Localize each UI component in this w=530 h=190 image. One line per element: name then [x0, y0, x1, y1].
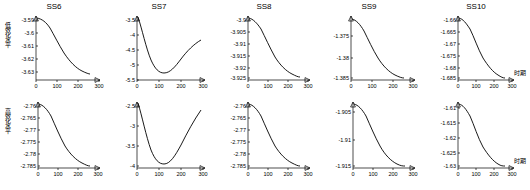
svg-text:200: 200 — [388, 171, 397, 177]
svg-text:0: 0 — [246, 83, 249, 89]
svg-text:-1.685: -1.685 — [440, 75, 456, 81]
svg-text:100: 100 — [53, 171, 62, 177]
svg-text:-1.625: -1.625 — [440, 150, 456, 156]
svg-text:-2.765: -2.765 — [230, 115, 246, 121]
svg-text:100: 100 — [263, 83, 272, 89]
plot-ss8-low: -3.9 -3.905 -3.91 -3.915 -3.92 -3.925 0 … — [220, 12, 314, 90]
plot-svg-ss7-low: -3.5 -4 -4.5 -5 -5.5 0 100 200 300 — [115, 12, 209, 90]
axes — [349, 16, 415, 82]
svg-text:0: 0 — [135, 171, 138, 177]
y-tick-labels: -1.375 -1.38 -1.385 — [333, 33, 349, 81]
svg-text:-2.76: -2.76 — [23, 103, 36, 109]
series-line — [138, 103, 201, 164]
x-axis-label-row2: 时期 — [514, 156, 526, 165]
svg-text:0: 0 — [456, 171, 459, 177]
svg-text:-2.775: -2.775 — [20, 139, 36, 145]
y-tick-labels: -1.66 -1.665 -1.67 -1.675 -1.68 -1.685 — [440, 17, 456, 81]
axes — [246, 102, 310, 170]
svg-text:-2.5: -2.5 — [126, 103, 135, 109]
svg-text:-4.5: -4.5 — [126, 47, 135, 53]
svg-text:-1.385: -1.385 — [333, 75, 349, 81]
svg-text:-3.6: -3.6 — [25, 30, 34, 36]
svg-text:0: 0 — [456, 83, 459, 89]
x-tick-labels: 0 100 200 300 — [246, 171, 312, 177]
svg-text:-3.905: -3.905 — [230, 29, 246, 35]
y-tick-labels: -3.59 -3.6 -3.61 -3.62 -3.63 — [21, 17, 34, 75]
panel-title-ss9: SS9 — [319, 2, 419, 11]
series-line — [138, 17, 201, 73]
panel-ss9-high: -1.905 -1.91 -1.915 0 100 200 300 — [319, 96, 419, 188]
svg-text:-1.68: -1.68 — [443, 65, 456, 71]
svg-text:-1.38: -1.38 — [336, 55, 349, 61]
svg-text:300: 300 — [408, 171, 417, 177]
series-line — [459, 104, 505, 166]
svg-text:100: 100 — [263, 171, 272, 177]
y-tick-labels: -2.5 -3 -3.5 -4 — [126, 103, 135, 169]
svg-text:-3.62: -3.62 — [21, 56, 34, 62]
svg-text:200: 200 — [489, 83, 498, 89]
svg-text:300: 300 — [93, 171, 102, 177]
svg-text:100: 100 — [154, 83, 163, 89]
svg-text:300: 300 — [303, 171, 312, 177]
svg-text:-1.61: -1.61 — [443, 105, 456, 111]
y-tick-labels: -2.76 -2.765 -2.77 -2.775 -2.78 -2.785 — [230, 103, 246, 169]
svg-text:-1.63: -1.63 — [443, 163, 456, 169]
series-line — [459, 18, 505, 78]
svg-text:-1.91: -1.91 — [338, 137, 351, 143]
svg-text:-5: -5 — [130, 62, 135, 68]
svg-text:-1.905: -1.905 — [335, 109, 351, 115]
svg-text:-2.76: -2.76 — [233, 103, 246, 109]
panel-ss7-low: SS7 -3.5 — [109, 2, 209, 94]
svg-text:-2.77: -2.77 — [23, 127, 36, 133]
svg-text:-1.66: -1.66 — [443, 17, 456, 23]
svg-text:200: 200 — [283, 83, 292, 89]
plot-ss9-low: -1.375 -1.38 -1.385 0 100 200 300 — [325, 12, 419, 90]
svg-text:-3.92: -3.92 — [233, 65, 246, 71]
series-line — [37, 18, 90, 74]
x-tick-labels: 0 100 200 300 — [36, 171, 102, 177]
svg-text:-2.78: -2.78 — [233, 151, 246, 157]
x-axis-label-row1: 时期 — [514, 68, 526, 77]
plot-svg-ss10-low: -1.66 -1.665 -1.67 -1.675 -1.68 -1.685 0… — [430, 12, 528, 90]
axes — [456, 16, 514, 82]
x-tick-labels: 0 100 200 300 — [135, 171, 207, 177]
svg-text:-3.915: -3.915 — [230, 53, 246, 59]
panel-ss8-low: SS8 — [214, 2, 314, 94]
svg-text:0: 0 — [246, 171, 249, 177]
svg-text:-1.67: -1.67 — [443, 41, 456, 47]
x-tick-labels: 0 100 200 300 — [34, 83, 103, 89]
series-line — [352, 19, 404, 78]
panel-title-ss8: SS8 — [214, 2, 314, 11]
svg-text:200: 200 — [489, 171, 498, 177]
svg-text:-1.915: -1.915 — [335, 163, 351, 169]
plot-ss10-high: -1.61 -1.615 -1.62 -1.625 -1.63 0 100 20… — [430, 98, 528, 180]
svg-text:-3.63: -3.63 — [21, 69, 34, 75]
panel-title-ss7: SS7 — [109, 2, 209, 11]
svg-text:-3: -3 — [130, 123, 135, 129]
panel-ss10-low: SS10 — [424, 2, 528, 94]
plot-ss8-high: -2.76 -2.765 -2.77 -2.775 -2.78 -2.785 0… — [220, 98, 314, 180]
series-line — [249, 104, 300, 166]
svg-text:-2.775: -2.775 — [230, 139, 246, 145]
svg-text:300: 300 — [507, 83, 516, 89]
svg-text:-2.77: -2.77 — [233, 127, 246, 133]
svg-text:100: 100 — [52, 83, 61, 89]
svg-text:-1.375: -1.375 — [333, 33, 349, 39]
x-tick-labels: 0 100 200 300 — [351, 171, 417, 177]
panel-ss6-high: 高效化水平 — [4, 96, 104, 188]
svg-text:-3.61: -3.61 — [21, 43, 34, 49]
plot-svg-ss6-low: -3.59 -3.6 -3.61 -3.62 -3.63 0 100 200 3… — [10, 12, 104, 90]
plot-svg-ss8-low: -3.9 -3.905 -3.91 -3.915 -3.92 -3.925 0 … — [220, 12, 314, 90]
x-tick-labels: 0 100 200 300 — [349, 83, 417, 89]
plot-svg-ss8-high: -2.76 -2.765 -2.77 -2.775 -2.78 -2.785 0… — [220, 98, 314, 180]
svg-text:300: 300 — [408, 83, 417, 89]
svg-text:-3.925: -3.925 — [230, 75, 246, 81]
svg-text:300: 300 — [198, 171, 207, 177]
series-line — [249, 18, 300, 77]
plot-ss6-high: -2.76 -2.765 -2.77 -2.775 -2.78 -2.785 0… — [10, 98, 104, 180]
y-tick-labels: -3.9 -3.905 -3.91 -3.915 -3.92 -3.925 — [230, 17, 246, 81]
svg-text:-1.615: -1.615 — [440, 120, 456, 126]
plot-ss7-high: -2.5 -3 -3.5 -4 0 100 200 300 — [115, 98, 209, 180]
axes — [246, 16, 310, 82]
plot-svg-ss7-high: -2.5 -3 -3.5 -4 0 100 200 300 — [115, 98, 209, 180]
